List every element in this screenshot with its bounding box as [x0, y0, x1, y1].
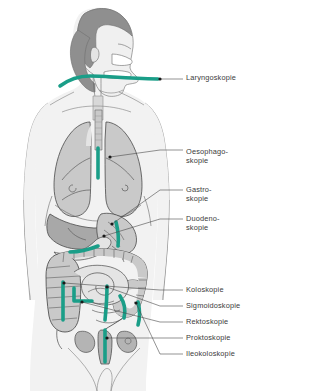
- label-laryngoskopie: Laryngoskopie: [186, 74, 236, 83]
- label-duodenoskopie: Duodeno- skopie: [186, 215, 220, 232]
- marker-dot-gastroskopie: [110, 222, 113, 225]
- label-gastroskopie: Gastro- skopie: [186, 186, 212, 203]
- scope-colon-desc: [138, 302, 140, 325]
- label-proktoskopie: Proktoskopie: [186, 334, 231, 343]
- label-koloskopie: Koloskopie: [186, 286, 224, 295]
- marker-dot-oesophagoskopie: [108, 155, 111, 158]
- label-oesophagoskopie: Oesophago- skopie: [186, 148, 228, 165]
- marker-dot-sigmoidoskopie: [105, 285, 108, 288]
- label-ileokoloskopie: Ileokoloskopie: [186, 350, 235, 359]
- head-group: [70, 9, 138, 97]
- marker-dot-duodenoskopie: [102, 234, 105, 237]
- marker-dot-laryngoskopie: [158, 77, 161, 80]
- label-rektoskopie: Rektoskopie: [186, 318, 228, 327]
- marker-dot-ileokoloskopie: [134, 301, 137, 304]
- marker-dot-rektoskopie: [80, 300, 83, 303]
- scope-sigmoid: [105, 286, 107, 320]
- label-sigmoidoskopie: Sigmoidoskopie: [186, 302, 240, 311]
- marker-dot-koloskopie: [62, 281, 65, 284]
- marker-dot-proktoskopie: [105, 336, 108, 339]
